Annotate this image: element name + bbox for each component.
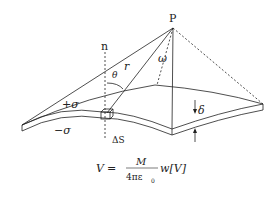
label-n: n <box>101 40 108 53</box>
double-layer-diagram: P n r θ ω +σ −σ δ ΔS V = M 4πε 0 w[V] <box>0 0 279 200</box>
theta-arc <box>107 83 123 89</box>
line-p-down <box>172 28 173 129</box>
svg-text:=: = <box>107 162 116 175</box>
svg-text:0: 0 <box>151 177 155 184</box>
label-delta: δ <box>198 104 205 117</box>
label-omega: ω <box>158 52 167 65</box>
line-p-right-dashed <box>173 28 263 104</box>
line-p-left <box>22 28 173 125</box>
label-minus-sigma: −σ <box>54 124 71 137</box>
potential-formula: V = M 4πε 0 w[V] <box>96 156 187 184</box>
label-delta-s: ΔS <box>112 135 125 145</box>
label-theta: θ <box>112 70 118 80</box>
svg-text:M: M <box>135 156 147 167</box>
svg-text:4πε: 4πε <box>126 172 143 182</box>
svg-text:w[V]: w[V] <box>160 162 187 175</box>
label-r: r <box>124 60 130 73</box>
label-plus-sigma: +σ <box>62 98 79 111</box>
svg-text:V: V <box>96 162 105 175</box>
label-p: P <box>169 12 177 25</box>
